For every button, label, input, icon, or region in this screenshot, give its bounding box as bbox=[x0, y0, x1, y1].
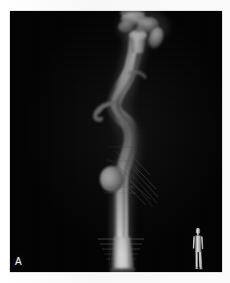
vessel-haze bbox=[121, 41, 136, 267]
orientation-marker-icon bbox=[186, 226, 212, 270]
figure-panel-a: A bbox=[0, 0, 230, 283]
panel-letter-label: A bbox=[15, 257, 22, 267]
volume-rendered-angiogram: A bbox=[10, 11, 222, 272]
